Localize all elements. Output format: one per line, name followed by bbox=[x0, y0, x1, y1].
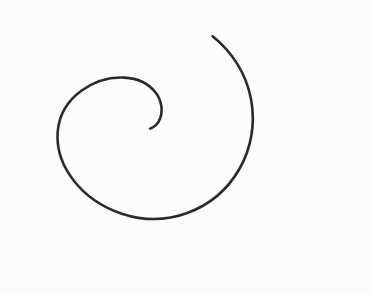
spiral-figure bbox=[0, 0, 372, 294]
scan-grain-overlay bbox=[0, 0, 372, 294]
figure-canvas: Logarithmic spiral on cartesian axes A h… bbox=[0, 0, 372, 294]
